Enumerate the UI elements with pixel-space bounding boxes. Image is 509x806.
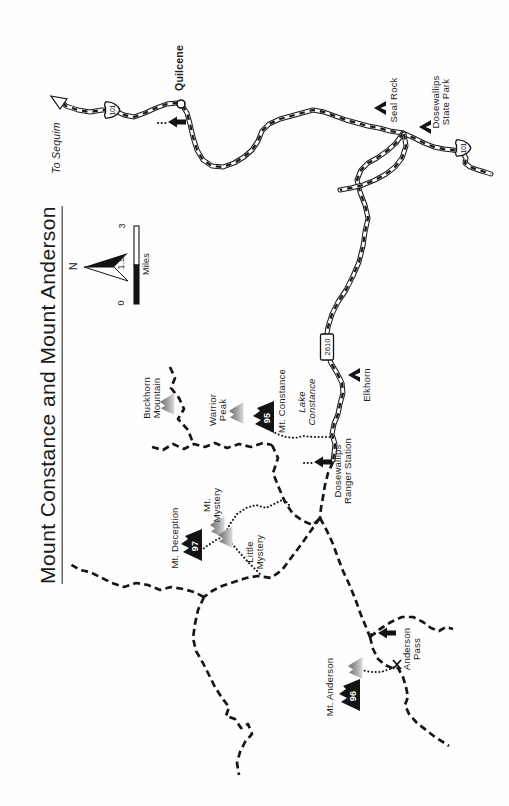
elkhorn-campground-icon [348, 368, 360, 382]
mt-mystery-label: Mt. Mystery [202, 488, 223, 523]
dosewallips-ranger-station-label: Dosewallips Ranger Station [333, 438, 354, 504]
buckhorn-mountain-label: Buckhorn Mountain [142, 377, 163, 419]
dosewallips-state-park-label: Dosewallips State Park [431, 76, 452, 129]
quilcene-town-label: Quilcene [174, 45, 185, 91]
us101-shield-north: 101 [105, 102, 120, 118]
us101-shield-north-label: 101 [109, 104, 116, 115]
dosewallips-state-park-line2: State Park [441, 76, 451, 129]
scale-units-label: Miles [142, 253, 152, 275]
trail-network [70, 367, 453, 775]
constance-ridge-trail [272, 445, 320, 525]
little-mystery-line2: Mystery [255, 535, 265, 570]
quilcene-town-marker [177, 100, 185, 108]
lake-constance-line2: Constance [307, 378, 317, 425]
scale-tick-3: 3 [118, 223, 128, 228]
seal-rock-campground-icon [374, 101, 386, 115]
scale-bar [134, 226, 139, 304]
hike-number-95: 95 [262, 413, 272, 424]
ranger-station-trailhead-arrow-icon [314, 457, 332, 468]
scale-tick-1-5: 1.5 [117, 256, 127, 269]
little-mystery-label: Little Mystery [245, 535, 266, 570]
anderson-gray-peak-icon [348, 657, 363, 679]
scale-tick-0: 0 [117, 300, 127, 305]
map-page: 101 101 2610 Mount Constance and Mount A… [0, 0, 509, 806]
warrior-peak-label: Warrior Peak [208, 394, 229, 426]
west-valley-trail [70, 564, 204, 597]
us101-shield-south-label: 101 [460, 142, 467, 153]
mt-anderson-label: Mt. Anderson [325, 658, 335, 716]
warrior-peak-icon [229, 402, 244, 424]
mt-deception-label: Mt. Deception [170, 507, 180, 568]
south-valley-trail [193, 597, 252, 775]
warrior-peak-line2: Peak [218, 394, 228, 426]
ranger-station-line2: Ranger Station [343, 438, 353, 504]
us101-shield-south: 101 [456, 140, 471, 156]
highway-101-road [63, 103, 491, 174]
mystery-north-route [224, 499, 289, 536]
lake-constance-label: Lake Constance [297, 378, 318, 425]
west-fork-trail [320, 518, 370, 637]
quilcene-trailhead-arrow-icon [168, 117, 186, 128]
road-2610-shield: 2610 [321, 334, 334, 360]
map-title: Mount Constance and Mount Anderson [37, 206, 60, 584]
mt-constance-label: Mt. Constance [277, 369, 287, 433]
mt-mystery-line2: Mystery [212, 488, 222, 523]
buckhorn-mountain-line2: Mountain [152, 377, 162, 419]
upper-traverse-trail [152, 443, 272, 450]
seal-rock-label: Seal Rock [389, 77, 399, 122]
hike-number-96: 96 [348, 691, 358, 702]
anderson-pass-line2: Pass [412, 628, 422, 670]
to-sequim-label: To Sequim [51, 122, 62, 174]
hike-number-97: 97 [190, 541, 200, 552]
road-2610-shield-label: 2610 [323, 339, 332, 356]
elkhorn-label: Elkhorn [362, 368, 372, 402]
north-label: N [68, 262, 79, 270]
anderson-pass-label: Anderson Pass [402, 628, 423, 670]
